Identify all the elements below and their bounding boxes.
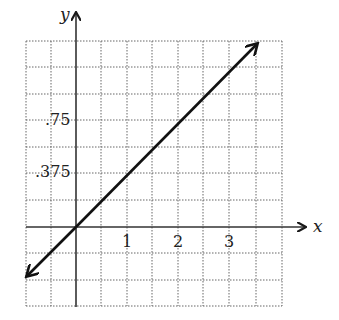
y-axis-label: y	[60, 6, 70, 23]
x-tick-label: 1	[122, 234, 132, 250]
y-tick-label: .375	[35, 164, 71, 180]
x-axis-label: x	[313, 218, 323, 235]
x-tick-label: 2	[173, 234, 183, 250]
x-tick-label: 3	[224, 234, 234, 250]
chart-canvas	[0, 0, 339, 320]
data-line	[76, 44, 257, 227]
y-tick-label: .75	[45, 112, 70, 128]
